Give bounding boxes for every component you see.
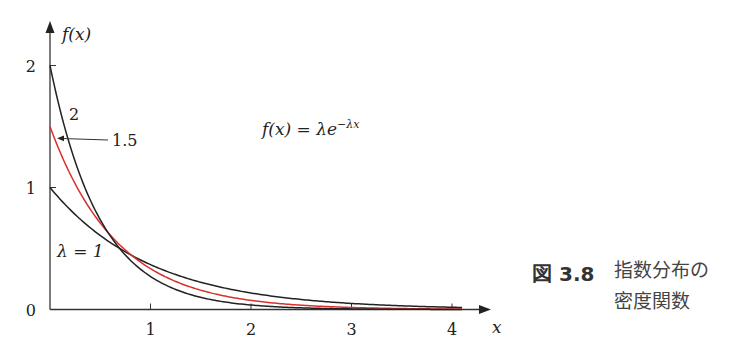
series-label-arrowhead-1-5 bbox=[57, 136, 64, 142]
caption-line-1: 指数分布の bbox=[614, 259, 709, 281]
figure-number: 図 3.8 bbox=[532, 258, 614, 287]
x-tick-label: 1 bbox=[145, 320, 155, 339]
caption-text: 指数分布の密度関数 bbox=[614, 255, 709, 317]
series-label-lambda-2: 2 bbox=[69, 105, 79, 124]
formula-exponent: −λx bbox=[337, 118, 360, 131]
x-tick-label: 2 bbox=[246, 320, 256, 339]
series-curve-1-5 bbox=[50, 127, 462, 310]
x-tick-label: 3 bbox=[346, 320, 356, 339]
y-tick-label: 2 bbox=[26, 57, 36, 76]
y-tick-label: 1 bbox=[26, 179, 36, 198]
y-axis-arrow bbox=[46, 21, 55, 33]
formula-main: f(x) = λe bbox=[260, 119, 337, 139]
ticks: 1234012 bbox=[26, 57, 457, 339]
figure-caption: 図 3.8指数分布の密度関数 bbox=[532, 258, 709, 317]
curves bbox=[50, 66, 462, 310]
x-tick-label: 4 bbox=[447, 320, 457, 339]
y-tick-label: 0 bbox=[26, 301, 36, 320]
formula-annotation: f(x) = λe−λx bbox=[260, 118, 360, 139]
x-axis-label: x bbox=[492, 317, 502, 337]
y-axis-label: f(x) bbox=[60, 24, 91, 44]
x-axis-arrow bbox=[479, 305, 491, 314]
axes bbox=[46, 21, 492, 314]
series-label-lambda-1: λ = 1 bbox=[56, 241, 104, 261]
series-curve-1 bbox=[50, 188, 462, 308]
caption-line-2: 密度関数 bbox=[614, 290, 690, 312]
series-curve-2 bbox=[50, 66, 462, 310]
series-label-lambda-1-5: 1.5 bbox=[112, 131, 137, 150]
